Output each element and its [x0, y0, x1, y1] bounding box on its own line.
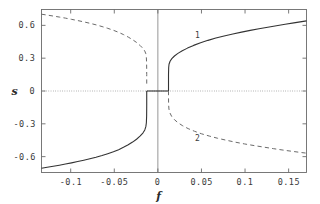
- curve-label-1: 1: [195, 31, 200, 40]
- bifurcation-diagram-figure: -0.1-0.0500.050.10.15 0.60.30-0.3-0.6 12…: [0, 0, 320, 204]
- y-tick-label: -0.3: [14, 119, 36, 129]
- plot-canvas: [0, 0, 320, 204]
- curve-upper-right-stable: [169, 21, 307, 91]
- x-axis-title: f: [156, 190, 161, 203]
- y-tick-label: 0.6: [19, 20, 36, 30]
- x-tick-label: 0: [155, 177, 161, 187]
- x-tick-label: 0.1: [237, 177, 254, 187]
- x-tick-label: 0.05: [190, 177, 212, 187]
- curve-upper-left-unstable: [42, 14, 147, 84]
- x-tick-label: -0.1: [60, 177, 82, 187]
- curve-label-2: 2: [195, 134, 200, 143]
- y-tick-label: 0.3: [19, 53, 36, 63]
- curve-lower-right-unstable: [169, 91, 307, 153]
- x-tick-label: 0.15: [278, 177, 300, 187]
- x-tick-label: -0.05: [100, 177, 128, 187]
- y-tick-label: 0: [30, 86, 36, 96]
- curve-lower-left-stable: [42, 91, 147, 168]
- y-axis-title: s: [12, 85, 18, 98]
- y-tick-label: -0.6: [14, 152, 36, 162]
